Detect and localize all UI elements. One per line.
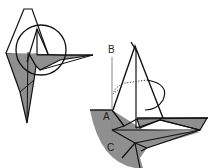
right-figure: B A C [90, 42, 208, 168]
diagram-canvas: B A C [0, 0, 213, 168]
left-figure [6, 9, 93, 123]
label-a: A [103, 111, 110, 122]
left-white-point [6, 9, 48, 54]
hidden-line-dotted [114, 80, 147, 92]
label-c: C [107, 142, 114, 153]
fold-arrow-curved [145, 80, 165, 110]
left-gray-flap [6, 52, 36, 123]
label-b: B [108, 44, 115, 55]
